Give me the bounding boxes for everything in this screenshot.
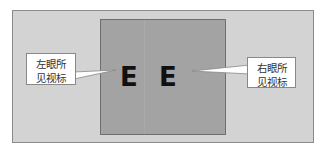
right-callout-pointer	[192, 65, 250, 74]
left-callout-line2: 见视标	[27, 71, 75, 85]
right-callout-line2: 见视标	[248, 75, 295, 89]
left-eye-optotype: E	[120, 64, 138, 90]
right-eye-optotype: E	[159, 64, 177, 90]
left-callout-pointer	[74, 70, 116, 79]
left-eye-callout: 左眼所 见视标	[26, 53, 76, 85]
left-callout-line1: 左眼所	[27, 57, 75, 71]
right-callout-line1: 右眼所	[248, 61, 295, 75]
right-eye-callout: 右眼所 见视标	[247, 57, 296, 88]
